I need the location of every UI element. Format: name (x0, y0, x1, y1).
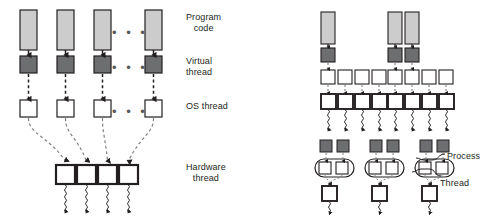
group-b-program-code-box-1 (388, 12, 402, 44)
group-a-os-thread-box-3 (355, 70, 369, 84)
os-thread-box-3 (94, 100, 111, 117)
hardware-thread-box-4 (119, 165, 138, 184)
label-program-code: Program code (186, 12, 221, 34)
process-2-thread-box-2 (386, 162, 398, 174)
process-1-thread-box-1 (319, 162, 331, 174)
diagram-canvas (0, 0, 496, 220)
process-1-thread-box-2 (336, 162, 348, 174)
process-3-virtual-thread-box-1 (420, 140, 432, 152)
group-a-os-thread-box-1 (321, 70, 335, 84)
hardware-thread-box-2 (77, 165, 96, 184)
process-3-thread-box-1 (419, 162, 431, 174)
virtual-thread-box-1 (20, 56, 37, 73)
os-thread-box-2 (57, 100, 74, 117)
group-a-os-thread-box-4 (372, 70, 386, 84)
program-code-box-3 (94, 10, 111, 50)
thread-model-diagram: Program code Virtual thread OS thread Ha… (0, 0, 496, 220)
group-a-hardware-thread-box-2 (338, 94, 353, 109)
process-1-hardware-thread-box (322, 186, 337, 201)
hardware-thread-box-1 (56, 165, 75, 184)
program-code-box-1 (20, 10, 37, 50)
hardware-thread-box-3 (98, 165, 117, 184)
group-a-program-code-box-1 (321, 12, 335, 44)
right-group-a-program-code-row (321, 12, 335, 44)
group-b-hardware-thread-box-4 (439, 94, 454, 109)
process-2-virtual-thread-box-1 (370, 140, 382, 152)
group-b-hardware-thread-box-3 (422, 94, 437, 109)
process-1-virtual-thread-box-1 (320, 140, 332, 152)
label-thread: Thread (440, 178, 469, 189)
group-b-virtual-thread-box-1 (388, 48, 402, 62)
group-a-hardware-thread-box-3 (355, 94, 370, 109)
group-a-os-thread-box-2 (338, 70, 352, 84)
group-a-hardware-thread-box-4 (372, 94, 387, 109)
process-2-thread-box-1 (369, 162, 381, 174)
process-1-virtual-thread-box-2 (337, 140, 349, 152)
group-b-os-thread-box-2 (405, 70, 419, 84)
os-thread-box-1 (20, 100, 37, 117)
group-b-os-thread-box-4 (439, 70, 453, 84)
ellipsis-os-thread: • • • (112, 107, 148, 117)
process-3-thread-box-2 (436, 162, 448, 174)
process-2-virtual-thread-box-2 (387, 140, 399, 152)
group-a-virtual-thread-box-1 (321, 48, 335, 62)
ellipsis-program-code: • • • (112, 28, 148, 38)
label-process: Process (447, 151, 480, 162)
label-os-thread: OS thread (186, 101, 228, 112)
group-b-os-thread-box-3 (422, 70, 436, 84)
ellipsis-virtual-thread: • • • (112, 63, 148, 73)
group-b-os-thread-box-1 (388, 70, 402, 84)
virtual-thread-box-2 (57, 56, 74, 73)
group-b-program-code-box-2 (405, 12, 419, 44)
group-b-virtual-thread-box-2 (405, 48, 419, 62)
program-code-box-2 (57, 10, 74, 50)
process-2-hardware-thread-box (372, 186, 387, 201)
label-hardware-thread: Hardware thread (186, 162, 226, 184)
group-a-hardware-thread-box-1 (321, 94, 336, 109)
process-3-hardware-thread-box (422, 186, 437, 201)
group-b-hardware-thread-box-1 (388, 94, 403, 109)
virtual-thread-box-3 (94, 56, 111, 73)
right-group-a-virtual-thread-row (321, 48, 335, 62)
group-b-hardware-thread-box-2 (405, 94, 420, 109)
left-hardware-thread-row (56, 165, 138, 184)
label-virtual-thread: Virtual thread (186, 56, 212, 78)
